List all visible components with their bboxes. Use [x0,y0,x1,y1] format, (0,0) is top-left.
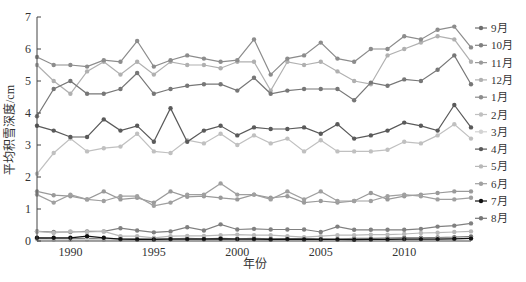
legend-item: 5月 [475,160,508,172]
data-point [135,228,139,232]
y-tick-label: 1 [25,202,31,216]
data-point [218,82,222,86]
data-point [68,229,72,233]
data-point [452,103,456,107]
data-point [68,63,72,67]
data-point [385,47,389,51]
legend-label: 1月 [491,91,508,103]
data-point [369,232,373,236]
legend-label: 9月 [491,22,508,34]
legend-item: 9月 [475,22,508,34]
data-point [285,88,289,92]
legend-marker-icon [479,199,483,203]
data-point [135,132,139,136]
data-point [85,234,89,238]
data-point [402,192,406,196]
series-4月 [35,103,473,144]
data-point [152,92,156,96]
data-point [419,231,423,235]
data-point [252,133,256,137]
data-point [402,77,406,81]
data-point [252,37,256,41]
data-point [135,39,139,43]
data-point [235,192,239,196]
data-point [469,236,473,240]
data-point [102,58,106,62]
series-line [37,55,471,116]
data-point [469,136,473,140]
legend-item: 7月 [475,195,508,207]
legend-label: 8月 [491,212,508,224]
data-point [168,200,172,204]
data-point [118,72,122,76]
data-point [435,133,439,137]
x-tick-label: 1990 [58,245,82,259]
data-point [469,60,473,64]
x-tick-label: 1995 [142,245,166,259]
data-point [218,66,222,70]
data-point [319,189,323,193]
data-point [118,144,122,148]
y-tick-label: 2 [25,170,31,184]
data-point [352,98,356,102]
data-point [68,79,72,83]
data-point [102,236,106,240]
data-point [435,128,439,132]
data-point [252,60,256,64]
data-point [202,63,206,67]
data-point [435,28,439,32]
data-point [218,60,222,64]
data-point [319,230,323,234]
line-chart: 0123456719901995200020052010 9月10月11月12月… [0,0,526,282]
y-axis-label: 平均积雪深度/cm [2,84,17,175]
data-point [202,128,206,132]
data-point [218,222,222,226]
data-point [419,141,423,145]
data-point [252,227,256,231]
legend-item: 3月 [475,126,508,138]
legend-marker-icon [479,60,483,64]
data-point [51,231,55,235]
data-point [352,149,356,153]
data-point [85,69,89,73]
data-point [302,87,306,91]
data-point [469,221,473,225]
data-point [218,124,222,128]
data-point [302,53,306,57]
data-point [152,149,156,153]
legend-marker-icon [479,95,483,99]
data-point [185,84,189,88]
legend-item: 1月 [475,91,508,103]
legend-label: 4月 [491,143,508,155]
data-point [102,92,106,96]
data-point [352,136,356,140]
series-10月 [35,221,473,234]
data-point [85,197,89,201]
data-point [252,192,256,196]
data-point [435,197,439,201]
data-point [268,92,272,96]
data-point [102,117,106,121]
data-point [185,225,189,229]
data-point [469,82,473,86]
data-point [369,133,373,137]
data-point [352,228,356,232]
data-point [385,232,389,236]
data-point [202,228,206,232]
data-point [402,34,406,38]
data-point [218,132,222,136]
data-point [335,56,339,60]
data-point [235,58,239,62]
data-point [68,192,72,196]
legend-item: 11月 [475,57,513,69]
data-point [252,125,256,129]
data-point [352,79,356,83]
data-point [268,197,272,201]
data-point [168,229,172,233]
legend-marker-icon [479,164,483,168]
data-point [118,226,122,230]
y-tick-label: 7 [25,10,31,24]
legend-label: 3月 [491,126,508,138]
data-point [102,199,106,203]
data-point [118,87,122,91]
